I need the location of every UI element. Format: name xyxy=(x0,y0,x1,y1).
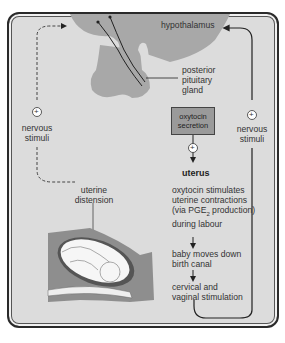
nervous-stimuli-right-label: nervous stimuli xyxy=(234,124,270,144)
posterior-pituitary-label: posterior pituitary gland xyxy=(182,65,215,95)
plus-sign-left: + xyxy=(34,107,39,117)
plus-sign-right: + xyxy=(249,110,254,120)
hypothalamus-label: hypothalamus xyxy=(161,20,215,30)
nervous-stimuli-left-label: nervous stimuli xyxy=(20,123,54,143)
uterus-label: uterus xyxy=(182,168,210,178)
oxytocin-effect-text: oxytocin stimulates uterine contractions… xyxy=(172,185,255,229)
baby-moves-text: baby moves down birth canal xyxy=(172,249,241,269)
cervical-stimulation-text: cervical and vaginal stimulation xyxy=(172,282,243,302)
pregnant-uterus-illustration xyxy=(48,228,154,302)
oxytocin-secretion-box: oxytocin secretion xyxy=(171,107,215,135)
plus-sign-center: + xyxy=(190,143,195,153)
uterine-distension-label: uterine distension xyxy=(66,185,122,205)
